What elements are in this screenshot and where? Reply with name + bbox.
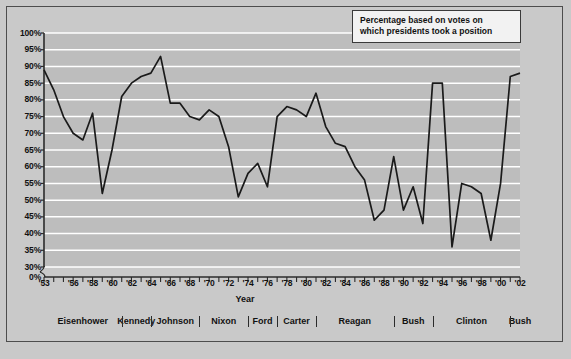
y-tick-label: 85% (7, 79, 41, 88)
x-tick-label: '84 (340, 278, 351, 288)
president-term-divider (433, 316, 434, 327)
annotation-callout: Percentage based on votes on which presi… (352, 10, 521, 43)
president-term-divider (394, 316, 395, 327)
x-tick-label: '82 (320, 278, 331, 288)
president-label-bush-2001: Bush (509, 316, 532, 326)
x-tick-label: '74 (243, 278, 254, 288)
president-term-divider (199, 316, 200, 327)
x-axis-title: Year (0, 294, 490, 304)
x-tick-label: '02 (515, 278, 526, 288)
y-tick-label: 60% (7, 162, 41, 171)
president-label-ford-1974: Ford (253, 316, 273, 326)
annotation-line-1: Percentage based on votes on (360, 15, 514, 26)
y-tick-label: 100% (7, 29, 41, 38)
x-tick-label: '78 (281, 278, 292, 288)
president-label-clinton-1993: Clinton (456, 316, 487, 326)
x-tick-label: '58 (87, 278, 98, 288)
x-tick-label: '00 (495, 278, 506, 288)
y-tick-label: 30% (7, 263, 41, 272)
president-label-eisenhower-1953: Eisenhower (58, 316, 109, 326)
x-tick-label: '68 (184, 278, 195, 288)
president-label-carter-1977: Carter (283, 316, 310, 326)
president-label-bush-1989: Bush (402, 316, 425, 326)
x-tick-label: '90 (398, 278, 409, 288)
annotation-line-2: which presidents took a position (360, 26, 514, 37)
y-tick-label: 40% (7, 229, 41, 238)
x-tick-label: '98 (476, 278, 487, 288)
y-tick-label: 70% (7, 129, 41, 138)
x-tick-label: '56 (68, 278, 79, 288)
y-tick-label: 90% (7, 62, 41, 71)
x-tick-label: '53 (39, 278, 50, 288)
y-tick-label: 95% (7, 45, 41, 54)
president-term-divider (277, 316, 278, 327)
president-term-divider (151, 316, 152, 327)
y-axis-labels: 100%95%90%85%80%75%70%65%60%55%50%45%40%… (5, 0, 41, 300)
x-tick-label: '72 (223, 278, 234, 288)
president-label-nixon-1969: Nixon (211, 316, 236, 326)
x-tick-label: '76 (262, 278, 273, 288)
x-tick-label: '86 (359, 278, 370, 288)
chart-svg (0, 0, 571, 359)
plot-area: 100%95%90%85%80%75%70%65%60%55%50%45%40%… (0, 0, 571, 359)
x-tick-label: '70 (204, 278, 215, 288)
y-tick-label: 65% (7, 146, 41, 155)
y-tick-label: 55% (7, 179, 41, 188)
y-tick-label: 45% (7, 212, 41, 221)
chart-screenshot: 100%95%90%85%80%75%70%65%60%55%50%45%40%… (0, 0, 571, 359)
x-tick-label: '92 (417, 278, 428, 288)
x-tick-label: '94 (437, 278, 448, 288)
president-label-reagan-1981: Reagan (339, 316, 372, 326)
president-term-divider (510, 316, 511, 327)
y-tick-label: 35% (7, 246, 41, 255)
x-tick-label: '62 (126, 278, 137, 288)
president-label-johnson-1964: Johnson (156, 316, 194, 326)
x-tick-label: '60 (107, 278, 118, 288)
x-tick-label: '80 (301, 278, 312, 288)
x-tick-label: '88 (379, 278, 390, 288)
x-axis-labels: '53'56'58'60'62'64'66'68'70'72'74'76'78'… (0, 278, 571, 292)
x-tick-label: '66 (165, 278, 176, 288)
president-term-divider (316, 316, 317, 327)
y-tick-label: 50% (7, 196, 41, 205)
president-term-divider (248, 316, 249, 327)
x-tick-label: '64 (145, 278, 156, 288)
president-term-band: EisenhowerKennedyJohnsonNixonFordCarterR… (0, 316, 571, 338)
president-term-divider (122, 316, 123, 327)
y-tick-label: 80% (7, 95, 41, 104)
x-tick-label: '96 (456, 278, 467, 288)
y-tick-label: 75% (7, 112, 41, 121)
president-label-kennedy-1961: Kennedy (117, 316, 155, 326)
